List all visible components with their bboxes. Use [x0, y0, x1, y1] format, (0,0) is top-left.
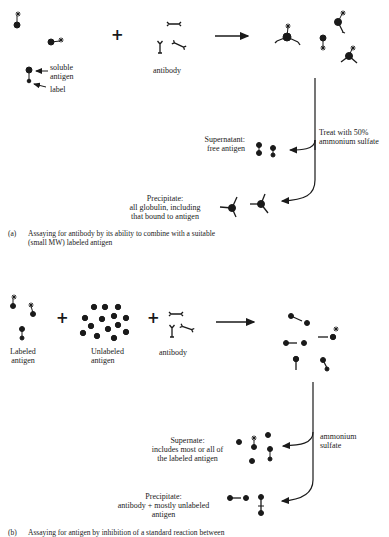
plus-sign: +: [56, 311, 69, 326]
caption-a-marker: (a): [8, 229, 16, 238]
labeled-antigen-icon: [320, 35, 326, 51]
labeled-antigen-label: Labeled antigen: [6, 347, 40, 365]
label-label: label: [50, 85, 66, 94]
precipitate-complex-icon: [250, 194, 268, 213]
antibody-label: antibody: [153, 66, 181, 75]
precipitate-label: Precipitate: all globulin, including tha…: [110, 194, 220, 221]
antigen-antibody-complex-icon: [335, 11, 346, 34]
antibody-label: antibody: [159, 348, 187, 357]
labeled-antigen-legend-icon: [26, 67, 48, 87]
soluble-antigen-label: soluble antigen: [50, 63, 74, 81]
caption-a: Assaying for antibody by its ability to …: [28, 229, 215, 247]
labeled-antigen-icon: [48, 38, 64, 46]
unlabeled-antigen-cloud: [80, 304, 128, 340]
labeled-antigen-icon: [14, 12, 21, 29]
unlabeled-antigen-label: Unlabeled antigen: [91, 347, 124, 365]
caption-b: Assaying for antigen by inhibition of a …: [28, 528, 224, 537]
supernatant-label: Supernatant: free antigen: [170, 135, 245, 153]
precipitate-label: Precipitate: antibody + mostly unlabeled…: [106, 492, 221, 519]
plus-sign: +: [147, 311, 160, 326]
antigen-antibody-complex-icon: [275, 24, 300, 46]
caption-b-marker: (b): [8, 528, 17, 537]
supernate-label: Supernate: includes most or all of the l…: [140, 436, 235, 463]
treatment-label: ammonium sulfate: [320, 432, 356, 450]
plus-sign: +: [111, 28, 124, 43]
precipitate-complex-icon: [220, 197, 237, 217]
treatment-label: Treat with 50% ammonium sulfate: [319, 128, 379, 146]
antigen-antibody-complex-icon: [341, 46, 357, 64]
